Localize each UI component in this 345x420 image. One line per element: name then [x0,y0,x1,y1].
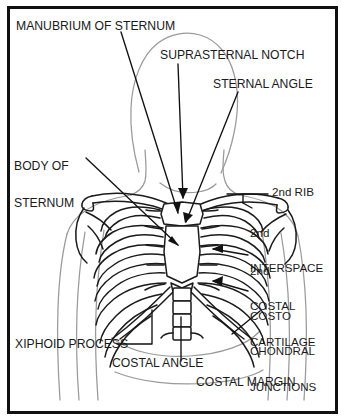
costal-margin-right-inner [191,292,244,339]
vertebra-1 [173,288,191,301]
vertebra-2 [173,301,191,314]
label-second-costal-cartilage-line1: 2nd [250,265,316,277]
sternum-body [164,226,200,283]
vertebral-column-group [161,288,203,340]
transverse-process-left [161,333,173,338]
label-sternal-angle: STERNAL ANGLE [213,78,313,90]
transverse-process-right [191,333,203,338]
manubrium [161,202,203,226]
neck-right-outline [223,150,239,195]
label-body-of-sternum-line1: BODY OF [14,160,74,172]
arm-left-inner-outline [77,232,85,400]
label-suprasternal-notch: SUPRASTERNAL NOTCH [160,49,304,61]
sternum-group [161,202,203,302]
neck-left-outline [131,150,146,195]
label-second-interspace-line1: 2nd [250,227,323,239]
label-costochondral-junctions: COSTO CHONDRAL JUNCTIONS [250,286,316,416]
label-costochondral-junctions-line1: COSTO [250,310,316,322]
label-costal-margin: COSTAL MARGIN [196,376,296,388]
label-second-rib: 2nd RIB [272,186,314,198]
leader-suprasternal-arrowhead [178,188,188,199]
anatomy-figure: MANUBRIUM OF STERNUM SUPRASTERNAL NOTCH … [0,0,345,420]
leader-suprasternal-notch [178,64,183,198]
arm-left-outer-outline [58,234,67,400]
label-body-of-sternum: BODY OF STERNUM [14,135,74,235]
label-manubrium-of-sternum: MANUBRIUM OF STERNUM [16,20,175,32]
costal-margin-left-inner [120,292,173,339]
vertebra-4 [173,327,191,340]
vertebra-3 [173,314,191,327]
label-costal-angle: COSTAL ANGLE [112,357,203,369]
label-xiphoid-process: XIPHOID PROCESS [15,338,128,350]
leader-sternal-angle [186,92,238,222]
label-costochondral-junctions-line2: CHONDRAL [250,345,316,357]
label-body-of-sternum-line2: STERNUM [14,197,74,209]
rib-left-2b [99,235,163,262]
clavicle-left [92,194,174,207]
